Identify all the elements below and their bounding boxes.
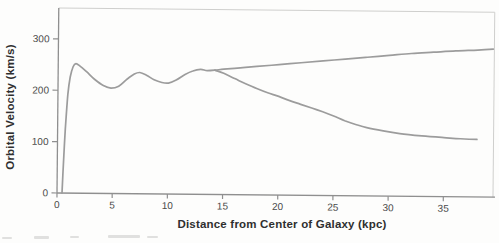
x-tick-label: 5	[109, 200, 115, 211]
caption-remnant-smudge	[108, 235, 140, 238]
curve-keplerian_expected_decline	[214, 70, 477, 139]
y-axis-line	[57, 8, 59, 193]
y-tick-label: 300	[33, 33, 50, 44]
x-tick-label: 20	[272, 201, 284, 212]
plot-frame-top	[59, 8, 495, 12]
x-tick-label: 15	[217, 201, 229, 212]
caption-remnant-smudge	[2, 237, 12, 239]
y-tick-label: 100	[32, 136, 49, 147]
y-axis-title: Orbital Velocity (km/s)	[4, 7, 16, 207]
x-tick-label: 30	[382, 202, 394, 213]
x-tick-label: 10	[162, 200, 174, 211]
caption-remnant-smudge	[70, 236, 79, 238]
caption-remnant-smudge	[34, 236, 49, 239]
caption-remnant-smudge	[147, 236, 158, 238]
y-tick-label: 200	[32, 84, 49, 95]
plot-area: 051015202530350100200300	[31, 8, 497, 214]
rotation-curve-figure: 051015202530350100200300 Orbital Velocit…	[0, 0, 499, 243]
x-axis-title: Distance from Center of Galaxy (kpc)	[156, 218, 408, 230]
x-tick-label: 25	[327, 202, 339, 213]
x-tick-label: 0	[54, 199, 60, 210]
y-tick-label: 0	[42, 187, 48, 198]
curve-observed_flat_rotation_curve	[62, 45, 493, 197]
plot-frame-right	[493, 12, 495, 197]
x-axis-line	[57, 193, 495, 197]
x-tick-label: 35	[438, 203, 450, 214]
rotation-curve-chart: 051015202530350100200300	[0, 0, 499, 243]
